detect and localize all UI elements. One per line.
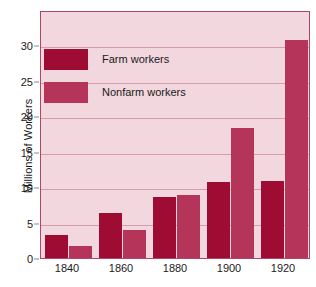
legend-label-farm-workers: Farm workers: [102, 53, 169, 65]
x-axis-tick-label: 1860: [109, 262, 133, 274]
bar: [153, 197, 176, 258]
y-axis-tick-label: 15: [21, 147, 33, 159]
legend-swatch-icon-nonfarm-workers: [44, 82, 88, 103]
bar: [99, 213, 122, 258]
y-axis-tick-label: 30: [21, 40, 33, 52]
y-axis-tick-label: 10: [21, 182, 33, 194]
y-axis-tick-mark: [34, 223, 39, 224]
y-axis-tick-mark: [34, 117, 39, 118]
legend: Farm workers Nonfarm workers: [44, 48, 234, 114]
bar: [231, 128, 254, 258]
x-axis-tick-label: 1840: [55, 262, 79, 274]
y-axis-tick-label: 20: [21, 111, 33, 123]
legend-swatch-icon-farm-workers: [44, 49, 88, 70]
legend-label-nonfarm-workers: Nonfarm workers: [102, 86, 186, 98]
y-axis-tick-mark: [34, 188, 39, 189]
x-axis-tick-label: 1880: [163, 262, 187, 274]
bar: [285, 40, 308, 258]
bar-chart: Millions of Workers 051015202530 Farm wo…: [0, 0, 316, 287]
bar: [177, 195, 200, 258]
bar-group: [257, 12, 311, 258]
x-axis-tick-labels: 18401860188019001920: [40, 262, 310, 282]
y-axis-tick-label: 0: [27, 253, 33, 265]
y-axis-tick-mark: [34, 81, 39, 82]
bar: [207, 182, 230, 258]
x-axis-tick-label: 1920: [271, 262, 295, 274]
y-axis-tick-label: 5: [27, 218, 33, 230]
y-axis-tick-mark: [34, 46, 39, 47]
legend-item-farm-workers: Farm workers: [44, 48, 234, 70]
bar: [123, 230, 146, 258]
y-axis-tick-mark: [34, 152, 39, 153]
legend-item-nonfarm-workers: Nonfarm workers: [44, 81, 234, 103]
y-axis-tick-label: 25: [21, 76, 33, 88]
bar: [45, 235, 68, 258]
bar: [69, 246, 92, 258]
y-axis-tick-mark: [34, 259, 39, 260]
y-axis-tick-labels: 051015202530: [0, 0, 38, 287]
bar: [261, 181, 284, 258]
x-axis-tick-label: 1900: [217, 262, 241, 274]
